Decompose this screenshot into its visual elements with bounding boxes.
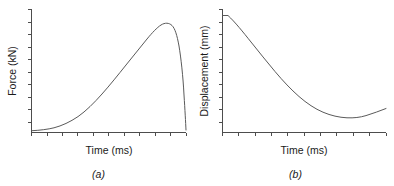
x-axis-ticks-a [32, 133, 187, 137]
panel-caption-a: (a) [0, 168, 197, 180]
plot-area-a: Force (kN) Time (ms) [0, 0, 197, 186]
data-curve-displacement [223, 16, 386, 118]
y-axis-ticks-a [28, 10, 32, 123]
y-axis-ticks-b [219, 10, 223, 123]
x-axis-ticks-b [223, 133, 387, 137]
figure-two-panel-plot: Force (kN) Time (ms) (a) [0, 0, 394, 186]
panel-a: Force (kN) Time (ms) (a) [0, 0, 197, 186]
panel-caption-b: (b) [197, 168, 394, 180]
y-axis-label-a: Force (kN) [6, 46, 18, 96]
y-axis-label-b: Displacement (mm) [198, 25, 210, 116]
x-axis-label-b: Time (ms) [281, 144, 328, 156]
data-curve-force [32, 23, 186, 130]
plot-area-b: Displacement (mm) Time (ms) [197, 0, 394, 186]
panel-b: Displacement (mm) Time (ms) (b) [197, 0, 394, 186]
x-axis-label-a: Time (ms) [86, 144, 133, 156]
